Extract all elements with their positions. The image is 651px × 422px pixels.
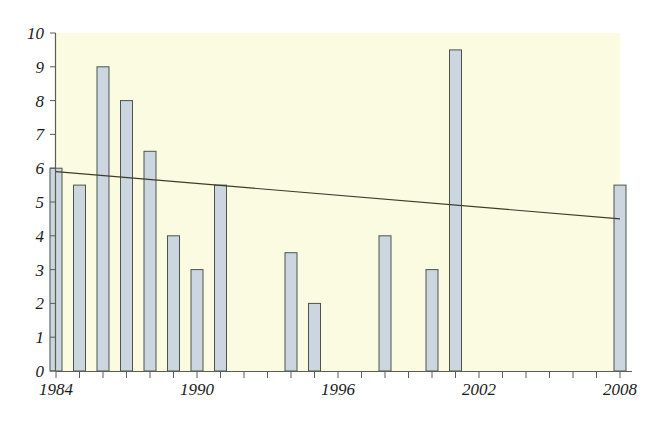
bar: [215, 185, 227, 371]
bar: [144, 151, 156, 371]
bar: [97, 67, 109, 371]
chart-graphics: [0, 0, 651, 422]
trendline: [56, 172, 620, 219]
x-axis-tick-label: 1996: [321, 381, 355, 398]
bar: [426, 270, 438, 371]
bars-group: [50, 50, 626, 371]
x-axis-tick-label: 2008: [603, 381, 637, 398]
x-axis-tick-label: 1984: [39, 381, 73, 398]
bar: [309, 303, 321, 371]
bar-chart: 012345678910 19841990199620022008: [0, 0, 651, 422]
bar: [168, 236, 180, 371]
axis-group: [50, 33, 632, 378]
bar: [450, 50, 462, 371]
bar: [379, 236, 391, 371]
x-axis-tick-label: 2002: [462, 381, 496, 398]
bar: [614, 185, 626, 371]
x-axis-labels: 19841990199620022008: [0, 381, 651, 411]
bar: [191, 270, 203, 371]
x-axis-tick-label: 1990: [180, 381, 214, 398]
bar: [121, 101, 133, 371]
trendline-group: [56, 172, 620, 219]
bar: [74, 185, 86, 371]
bar: [285, 253, 297, 371]
